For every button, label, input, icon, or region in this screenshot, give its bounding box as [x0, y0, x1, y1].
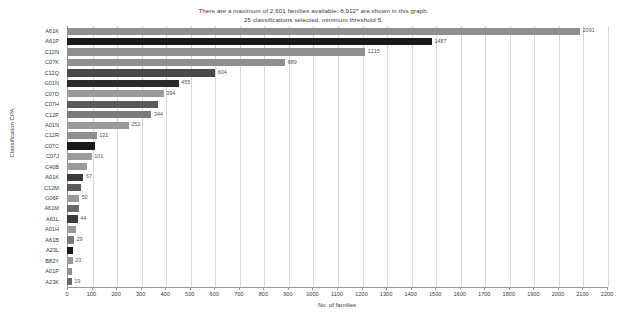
bar-row[interactable]: 2091 — [67, 26, 607, 36]
x-axis-tick-label: 1000 — [306, 291, 318, 297]
bar-row[interactable] — [67, 245, 607, 255]
bar[interactable] — [67, 122, 129, 129]
x-axis-label: No. of families — [67, 302, 607, 308]
bar[interactable] — [67, 90, 164, 97]
bar[interactable] — [67, 111, 151, 118]
bar-value-label: 23 — [75, 257, 81, 264]
bar[interactable] — [67, 101, 158, 108]
bar-row[interactable] — [67, 162, 607, 172]
bar[interactable] — [67, 163, 87, 170]
y-axis-tick-label: A61L — [0, 214, 63, 224]
bar-value-label: 394 — [166, 90, 175, 97]
bar-row[interactable]: 19 — [67, 277, 607, 287]
x-axis-tick-mark — [116, 287, 117, 290]
bar[interactable] — [67, 257, 73, 264]
x-axis-tick-mark — [362, 287, 363, 290]
bar[interactable] — [67, 174, 83, 181]
x-axis-tick-mark — [92, 287, 93, 290]
bar-row[interactable] — [67, 203, 607, 213]
bar-row[interactable]: 101 — [67, 151, 607, 161]
bar-row[interactable]: 1215 — [67, 47, 607, 57]
bar-value-label: 50 — [82, 194, 88, 201]
bar-row[interactable] — [67, 99, 607, 109]
bar[interactable] — [67, 132, 97, 139]
x-axis-tick-label: 1800 — [503, 291, 515, 297]
y-axis-tick-label: G06F — [0, 193, 63, 203]
bar-row[interactable]: 44 — [67, 214, 607, 224]
bar-row[interactable]: 121 — [67, 130, 607, 140]
gridline — [608, 26, 609, 287]
x-axis-tick-label: 300 — [136, 291, 145, 297]
bar-value-label: 67 — [86, 173, 92, 180]
x-axis-tick-label: 900 — [283, 291, 292, 297]
x-axis-tick-mark — [263, 287, 264, 290]
bar-value-label: 889 — [288, 59, 297, 66]
x-axis-tick-label: 400 — [161, 291, 170, 297]
bar-value-label: 44 — [80, 215, 86, 222]
bar[interactable] — [67, 205, 79, 212]
bar[interactable] — [67, 142, 95, 149]
x-axis-tick-mark — [239, 287, 240, 290]
x-axis-tick-mark — [165, 287, 166, 290]
bar[interactable] — [67, 215, 78, 222]
chart-title-line-1: There are a maximum of 2,601 families av… — [0, 6, 627, 15]
bar-value-label: 101 — [94, 153, 103, 160]
x-axis-tick-label: 100 — [87, 291, 96, 297]
bar[interactable] — [67, 278, 72, 285]
bar-row[interactable]: 67 — [67, 172, 607, 182]
y-axis-tick-label: A61K — [0, 26, 63, 36]
bar-row[interactable]: 394 — [67, 89, 607, 99]
bar-row[interactable]: 23 — [67, 256, 607, 266]
bar-row[interactable] — [67, 183, 607, 193]
bar[interactable] — [67, 195, 79, 202]
x-axis-tick-mark — [67, 287, 68, 290]
x-axis-tick-label: 800 — [259, 291, 268, 297]
chart-title-line-2: 25 classifications selected, minimum thr… — [0, 15, 627, 24]
bar-row[interactable] — [67, 141, 607, 151]
x-axis-tick-mark — [190, 287, 191, 290]
bar[interactable] — [67, 236, 74, 243]
x-axis-tick-label: 2100 — [576, 291, 588, 297]
bar-row[interactable]: 889 — [67, 57, 607, 67]
x-axis-ticks: 0100200300400500600700800900100011001200… — [67, 287, 607, 301]
bar-row[interactable]: 455 — [67, 78, 607, 88]
y-axis-tick-label: C12N — [0, 47, 63, 57]
bar-series: 2091148712158896044553943442521211016750… — [67, 26, 607, 287]
bar-row[interactable] — [67, 266, 607, 276]
bar[interactable] — [67, 48, 365, 55]
bar[interactable] — [67, 184, 81, 191]
bar-value-label: 1215 — [368, 48, 380, 55]
bar-row[interactable]: 1487 — [67, 36, 607, 46]
bar-row[interactable]: 604 — [67, 68, 607, 78]
y-axis-tick-label: C07K — [0, 57, 63, 67]
bar-row[interactable]: 252 — [67, 120, 607, 130]
bar-value-label: 455 — [181, 79, 190, 86]
y-axis-tick-label: A61B — [0, 235, 63, 245]
bar[interactable] — [67, 268, 72, 275]
bar-value-label: 604 — [218, 69, 227, 76]
x-axis-tick-mark — [337, 287, 338, 290]
bar[interactable] — [67, 80, 179, 87]
bar-row[interactable]: 50 — [67, 193, 607, 203]
bar[interactable] — [67, 153, 92, 160]
bar[interactable] — [67, 28, 580, 35]
bar-value-label: 252 — [131, 121, 140, 128]
bar[interactable] — [67, 69, 215, 76]
bar-row[interactable]: 29 — [67, 235, 607, 245]
y-axis-tick-label: A01P — [0, 266, 63, 276]
x-axis-tick-mark — [411, 287, 412, 290]
bar-row[interactable] — [67, 224, 607, 234]
x-axis-tick-label: 1300 — [380, 291, 392, 297]
x-axis-tick-mark — [460, 287, 461, 290]
bar[interactable] — [67, 226, 76, 233]
x-axis-tick-mark — [582, 287, 583, 290]
bar[interactable] — [67, 38, 432, 45]
bar[interactable] — [67, 59, 285, 66]
x-axis-tick-mark — [533, 287, 534, 290]
bar[interactable] — [67, 247, 73, 254]
x-axis-tick-label: 2200 — [601, 291, 613, 297]
bar-row[interactable]: 344 — [67, 110, 607, 120]
x-axis-tick-mark — [484, 287, 485, 290]
chart-title: There are a maximum of 2,601 families av… — [0, 6, 627, 24]
x-axis-tick-mark — [435, 287, 436, 290]
